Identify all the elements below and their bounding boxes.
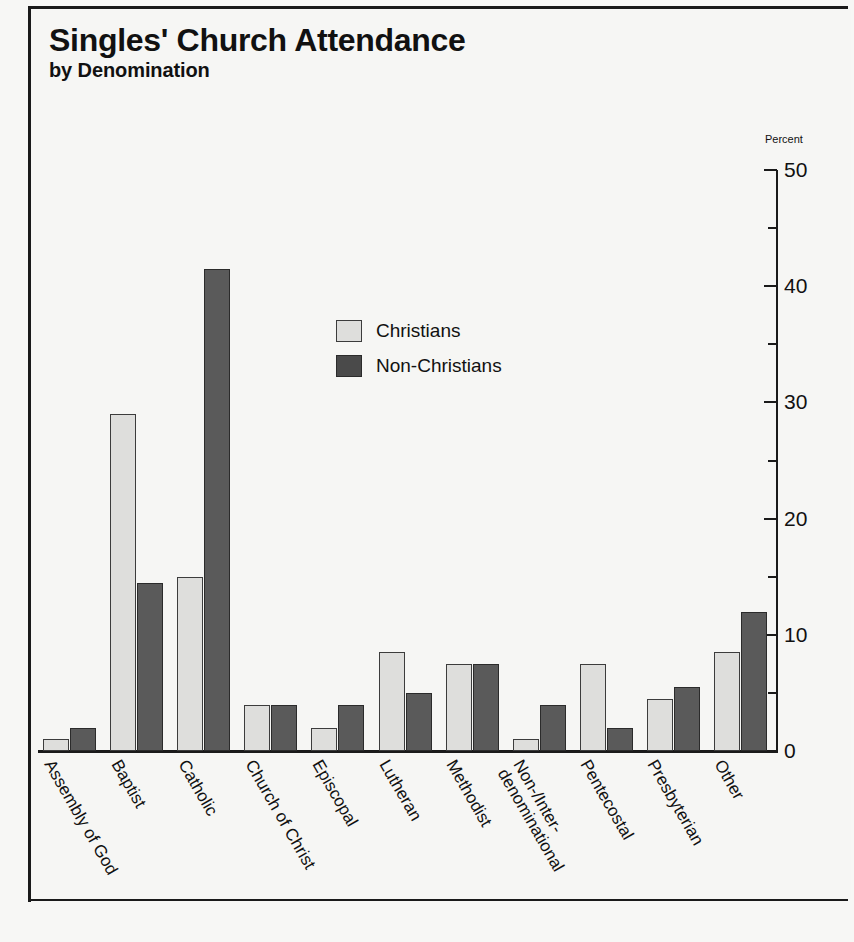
category-label-line: Methodist <box>442 757 495 830</box>
category-label-line: Assembly of God <box>40 757 121 879</box>
y-tick-label: 30 <box>784 390 807 414</box>
plot-area <box>38 170 776 751</box>
category-label-line: Episcopal <box>308 757 361 830</box>
axis-unit-label: Percent <box>765 133 803 145</box>
category-label-line: Catholic <box>174 757 221 820</box>
bar <box>204 269 230 751</box>
category-label: Episcopal <box>309 757 361 830</box>
category-label: Methodist <box>443 757 495 829</box>
bar <box>446 664 472 751</box>
frame-left-rule <box>28 6 31 902</box>
bar <box>674 687 700 751</box>
category-label-line: Other <box>711 757 749 803</box>
chart-title: Singles' Church Attendance <box>49 24 465 58</box>
bar-group <box>379 170 432 751</box>
bar <box>513 739 539 751</box>
bar <box>110 414 136 751</box>
bar <box>580 664 606 751</box>
category-label: Other <box>711 757 747 802</box>
category-label-line: Pentecostal <box>577 757 638 843</box>
category-label: Baptist <box>108 757 149 811</box>
bar-group <box>580 170 633 751</box>
category-label-line: Presbyterian <box>644 757 708 849</box>
bar-group <box>311 170 364 751</box>
category-label: Non-/Inter-denominational <box>494 757 583 875</box>
y-tick-label: 50 <box>784 158 807 182</box>
bar <box>741 612 767 751</box>
bar-group <box>43 170 96 751</box>
bar <box>338 705 364 751</box>
bar <box>271 705 297 751</box>
bar <box>473 664 499 751</box>
bar <box>607 728 633 751</box>
bar <box>311 728 337 751</box>
frame-bottom-rule <box>28 899 848 901</box>
category-label-line: Church of Christ <box>241 757 319 873</box>
legend-swatch-non-christians <box>336 355 362 377</box>
bar <box>70 728 96 751</box>
legend-item-christians: Christians <box>336 320 502 342</box>
bar <box>406 693 432 751</box>
bar <box>647 699 673 751</box>
bar-group <box>647 170 700 751</box>
bar-group <box>177 170 230 751</box>
legend-label-christians: Christians <box>376 320 460 342</box>
bar-group <box>110 170 163 751</box>
bar-group <box>714 170 767 751</box>
category-label: Presbyterian <box>644 757 707 848</box>
bar-group <box>513 170 566 751</box>
bar <box>43 739 69 751</box>
category-label: Church of Christ <box>242 757 318 872</box>
y-tick-label: 0 <box>784 739 796 763</box>
y-tick-label: 10 <box>784 623 807 647</box>
bar <box>379 652 405 751</box>
category-label: Pentecostal <box>577 757 636 843</box>
y-tick-label: 20 <box>784 507 807 531</box>
legend-label-non-christians: Non-Christians <box>376 355 502 377</box>
chart-page: Singles' Church Attendance by Denominati… <box>0 0 854 942</box>
bar-group <box>244 170 297 751</box>
category-label: Assembly of God <box>41 757 121 878</box>
legend-item-non-christians: Non-Christians <box>336 355 502 377</box>
category-label: Lutheran <box>376 757 425 824</box>
legend-swatch-christians <box>336 320 362 342</box>
y-tick-label: 40 <box>784 274 807 298</box>
frame-top-rule <box>28 6 848 9</box>
bar <box>540 705 566 751</box>
category-label: Catholic <box>175 757 221 819</box>
bar-group <box>446 170 499 751</box>
bar <box>244 705 270 751</box>
chart-subtitle: by Denomination <box>49 59 465 82</box>
bar <box>177 577 203 751</box>
category-label-line: Lutheran <box>375 757 425 825</box>
category-label-line: Baptist <box>107 757 149 812</box>
bar <box>137 583 163 751</box>
chart-title-block: Singles' Church Attendance by Denominati… <box>49 24 465 82</box>
bar <box>714 652 740 751</box>
category-axis-labels: Assembly of GodBaptistCatholicChurch of … <box>38 757 778 897</box>
legend: Christians Non-Christians <box>336 320 502 390</box>
